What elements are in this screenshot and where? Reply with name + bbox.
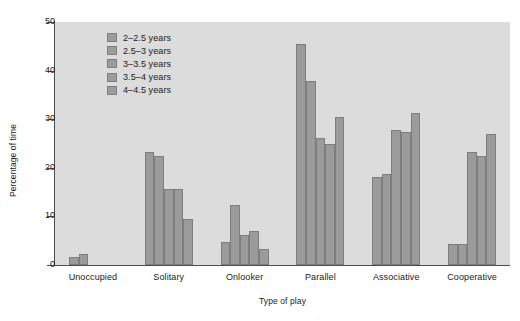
x-axis-title: Type of play [55, 296, 510, 306]
x-axis-tick-label: Solitary [131, 272, 207, 282]
y-axis-tick-label: 50 [13, 16, 55, 26]
legend-label: 2.5–3 years [123, 46, 171, 56]
bar-group [372, 22, 420, 265]
bar [335, 117, 345, 265]
bar [79, 254, 89, 265]
bar [458, 244, 468, 265]
legend-swatch-icon [107, 46, 117, 55]
bar [164, 189, 174, 265]
legend-label: 3.5–4 years [123, 72, 171, 82]
legend-item: 2–2.5 years [107, 31, 171, 44]
x-axis-tick-label: Onlooker [207, 272, 283, 282]
bar [486, 134, 496, 265]
bar [69, 257, 79, 265]
bar [382, 174, 392, 265]
x-axis-tick-label: Unoccupied [55, 272, 131, 282]
legend-swatch-icon [107, 59, 117, 68]
bar-chart-figure: Percentage of time 01020304050 2–2.5 yea… [0, 0, 520, 321]
bar [448, 244, 458, 265]
y-axis-tick-label: 10 [13, 210, 55, 220]
x-axis-line [54, 265, 510, 266]
bar [306, 81, 316, 265]
legend-swatch-icon [107, 73, 117, 82]
x-axis-tick-label: Parallel [283, 272, 359, 282]
bar [316, 138, 326, 265]
legend-swatch-icon [107, 86, 117, 95]
bar [372, 177, 382, 265]
x-axis-tick-label: Associative [358, 272, 434, 282]
bar [230, 205, 240, 265]
bar [477, 156, 487, 265]
y-axis-tick-label: 20 [13, 162, 55, 172]
bar [296, 44, 306, 265]
bar [401, 132, 411, 265]
legend-item: 3.5–4 years [107, 71, 171, 84]
bar [145, 152, 155, 265]
bar [411, 113, 421, 265]
legend-label: 3–3.5 years [123, 59, 171, 69]
y-axis-tick-label: 30 [13, 113, 55, 123]
bar [174, 189, 184, 265]
y-axis-title: Percentage of time [0, 0, 26, 321]
bar [221, 242, 231, 265]
x-axis-tick-label: Cooperative [434, 272, 510, 282]
bar-group [296, 22, 344, 265]
legend-item: 4–4.5 years [107, 84, 171, 97]
legend-item: 3–3.5 years [107, 57, 171, 70]
y-axis-tick-label: 40 [13, 65, 55, 75]
bar [154, 156, 164, 265]
legend-swatch-icon [107, 33, 117, 42]
legend-label: 4–4.5 years [123, 85, 171, 95]
bar [325, 144, 335, 265]
legend-label: 2–2.5 years [123, 33, 171, 43]
legend-item: 2.5–3 years [107, 44, 171, 57]
bar-group [448, 22, 496, 265]
bar [249, 231, 259, 265]
bar [259, 249, 269, 265]
bar [183, 219, 193, 265]
y-axis-tick-label: 0 [13, 259, 55, 269]
bar [240, 235, 250, 265]
legend: 2–2.5 years2.5–3 years3–3.5 years3.5–4 y… [107, 31, 171, 97]
bar [467, 152, 477, 265]
bar-group [221, 22, 269, 265]
bar [391, 130, 401, 265]
